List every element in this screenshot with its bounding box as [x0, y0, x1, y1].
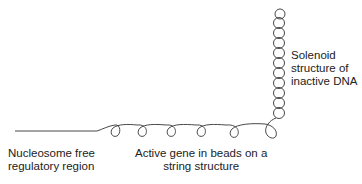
nfr-label-line1: Nucleosome free	[8, 147, 95, 160]
beads-on-string	[97, 124, 265, 138]
solenoid-label-line3: inactive DNA	[291, 75, 357, 88]
solenoid-label-line1: Solenoid	[291, 49, 357, 62]
solenoid-label: Solenoid structure of inactive DNA	[291, 49, 357, 88]
solenoid-label-line2: structure of	[291, 62, 357, 75]
active-gene-label: Active gene in beads on a string structu…	[135, 147, 267, 173]
active-label-line2: string structure	[135, 160, 267, 173]
solenoid-coil	[274, 9, 286, 119]
active-label-line1: Active gene in beads on a	[135, 147, 267, 160]
nfr-label-line2: regulatory region	[8, 160, 95, 173]
corner-loop	[265, 118, 276, 138]
nucleosome-free-label: Nucleosome free regulatory region	[8, 147, 95, 173]
